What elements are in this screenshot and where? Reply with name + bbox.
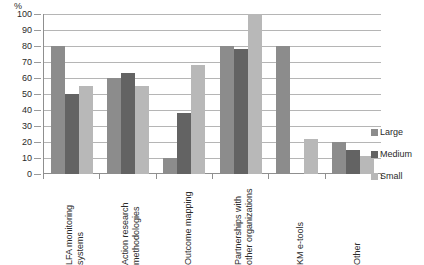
legend-label: Medium bbox=[380, 150, 412, 159]
y-axis-tick-mark bbox=[34, 94, 41, 95]
bar-medium bbox=[121, 14, 135, 174]
x-axis-label-slot: Partnerships withother organizations bbox=[212, 180, 268, 265]
x-axis-tick-mark bbox=[268, 174, 269, 179]
bar-medium bbox=[177, 14, 191, 174]
y-axis-tick-label: 60 bbox=[0, 74, 32, 83]
x-axis-tick-mark bbox=[99, 174, 100, 179]
x-axis-label-line: LFA monitoring bbox=[64, 180, 75, 265]
bar-fill bbox=[177, 113, 191, 174]
x-axis-label: Other bbox=[352, 180, 363, 265]
x-axis-tick-mark bbox=[212, 174, 213, 179]
legend-label: Large bbox=[380, 128, 403, 137]
x-axis-label-slot: Other bbox=[325, 180, 381, 265]
legend-swatch-icon bbox=[371, 151, 378, 158]
legend-swatch-icon bbox=[371, 129, 378, 136]
legend-label: Small bbox=[380, 172, 403, 181]
bar-large bbox=[51, 14, 65, 174]
bar-fill bbox=[135, 86, 149, 174]
bar-fill bbox=[121, 73, 135, 174]
bar-fill bbox=[191, 65, 205, 174]
bar-fill bbox=[51, 46, 65, 174]
y-axis-tick-mark bbox=[34, 174, 41, 175]
bar-group bbox=[156, 14, 212, 174]
bar-fill bbox=[248, 14, 262, 174]
x-axis-label-line: systems bbox=[75, 180, 86, 265]
y-axis-tick-label: 80 bbox=[0, 42, 32, 51]
legend-swatch-icon bbox=[371, 173, 378, 180]
x-axis-label-line: KM e-tools bbox=[295, 180, 306, 265]
bar-fill bbox=[234, 49, 248, 174]
bar-fill bbox=[79, 86, 93, 174]
bar-small bbox=[79, 14, 93, 174]
bar-fill bbox=[220, 46, 234, 174]
y-axis-tick-label: 70 bbox=[0, 58, 32, 67]
bar-group bbox=[213, 14, 269, 174]
bar-small bbox=[304, 14, 318, 174]
y-axis-tick-label: 90 bbox=[0, 26, 32, 35]
x-axis-label-slot: Outcome mapping bbox=[156, 180, 212, 265]
bar-large bbox=[332, 14, 346, 174]
bar-fill bbox=[276, 46, 290, 174]
y-axis-tick-mark bbox=[34, 158, 41, 159]
bar-fill bbox=[107, 78, 121, 174]
y-axis-tick-label: 40 bbox=[0, 106, 32, 115]
legend-item-small[interactable]: Small bbox=[371, 165, 424, 187]
y-axis-tick-mark bbox=[34, 30, 41, 31]
x-axis-tick-mark bbox=[325, 174, 326, 179]
bar-fill bbox=[304, 139, 318, 174]
x-axis-label-slot: LFA monitoringsystems bbox=[43, 180, 99, 265]
y-axis-tick-mark bbox=[34, 46, 41, 47]
bar-large bbox=[107, 14, 121, 174]
bar-small bbox=[248, 14, 262, 174]
legend-item-large[interactable]: Large bbox=[371, 121, 424, 143]
bar-large bbox=[276, 14, 290, 174]
y-axis-tick-mark bbox=[34, 110, 41, 111]
y-axis-tick-label: 10 bbox=[0, 154, 32, 163]
y-axis-tick-mark bbox=[34, 62, 41, 63]
bar-small bbox=[135, 14, 149, 174]
x-axis-label: Outcome mapping bbox=[183, 180, 194, 265]
x-axis-label-line: methodologies bbox=[131, 180, 142, 265]
bar-group bbox=[44, 14, 100, 174]
bar-groups bbox=[44, 14, 381, 174]
x-axis-label: Partnerships withother organizations bbox=[233, 180, 255, 265]
bar-group bbox=[100, 14, 156, 174]
y-axis-tick-label: 20 bbox=[0, 138, 32, 147]
bar-small bbox=[191, 14, 205, 174]
y-axis-tick-mark bbox=[34, 14, 41, 15]
bar-medium bbox=[290, 14, 304, 174]
y-axis-tick-label: 0 bbox=[0, 170, 32, 179]
bar-medium bbox=[65, 14, 79, 174]
x-axis-label-line: Action research bbox=[120, 180, 131, 265]
bar-group bbox=[269, 14, 325, 174]
x-axis-label: LFA monitoringsystems bbox=[64, 180, 86, 265]
y-axis-tick-mark bbox=[34, 142, 41, 143]
legend-item-medium[interactable]: Medium bbox=[371, 143, 424, 165]
x-axis-label-line: Other bbox=[352, 180, 363, 265]
x-axis-label-line: other organizations bbox=[244, 180, 255, 265]
bar-medium bbox=[234, 14, 248, 174]
x-axis-tick-mark bbox=[156, 174, 157, 179]
x-axis-label: Action researchmethodologies bbox=[120, 180, 142, 265]
x-axis-label-line: Partnerships with bbox=[233, 180, 244, 265]
bar-fill bbox=[346, 150, 360, 174]
bar-large bbox=[220, 14, 234, 174]
y-axis-tick-mark bbox=[34, 78, 41, 79]
bar-large bbox=[163, 14, 177, 174]
bar-fill bbox=[65, 94, 79, 174]
y-axis-tick-label: 50 bbox=[0, 90, 32, 99]
x-axis-label: KM e-tools bbox=[295, 180, 306, 265]
bar-chart: % 1009080706050403020100 LFA monitorings… bbox=[0, 0, 424, 265]
x-axis-category-labels: LFA monitoringsystemsAction researchmeth… bbox=[43, 180, 381, 265]
y-axis-tick-labels: 1009080706050403020100 bbox=[0, 14, 44, 174]
x-axis-label-slot: Action researchmethodologies bbox=[99, 180, 155, 265]
bar-fill bbox=[332, 142, 346, 174]
legend: LargeMediumSmall bbox=[371, 121, 424, 187]
bar-medium bbox=[346, 14, 360, 174]
x-axis-tick-mark bbox=[43, 174, 44, 179]
y-axis-tick-label: 100 bbox=[0, 10, 32, 19]
bar-fill bbox=[163, 158, 177, 174]
plot-area bbox=[43, 14, 381, 174]
y-axis-tick-mark bbox=[34, 126, 41, 127]
x-axis-label-slot: KM e-tools bbox=[268, 180, 324, 265]
